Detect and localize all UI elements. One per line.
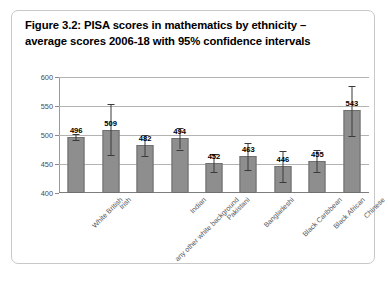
error-bar-cap-lower [176,150,183,151]
bar-group[interactable]: 494 [162,77,196,193]
figure-title-line-2: average scores 2006-18 with 95% confiden… [25,34,365,50]
figure-title-line-1: Figure 3.2: PISA scores in mathematics b… [25,18,365,34]
x-axis-category-label: Indian [188,196,207,215]
x-axis-category-labels: White BritishIrishany other white backgr… [59,196,369,262]
bar-value-label: 446 [277,155,290,164]
error-bar-cap-lower [142,156,149,157]
bar-group[interactable]: 543 [335,77,369,193]
x-axis-category-label: Chinese [362,196,386,220]
bar-group[interactable]: 455 [300,77,334,193]
x-axis-category-label: any other white background [174,196,241,263]
bar-value-label: 463 [242,145,255,154]
bar-group[interactable]: 509 [93,77,127,193]
y-axis-tick-label: 450 [41,160,53,169]
y-axis-tick-label: 500 [41,131,53,140]
error-bar-cap-lower [314,172,321,173]
bar[interactable] [68,137,85,193]
y-axis-tick-label: 550 [41,102,53,111]
error-bar-cap-lower [279,182,286,183]
bar-value-label: 452 [208,152,221,161]
x-axis-category-label: Black Caribbean [301,196,343,238]
y-axis-tick-label: 600 [41,73,53,82]
y-axis-tick [55,193,59,194]
figure-title: Figure 3.2: PISA scores in mathematics b… [25,18,365,49]
bar-group[interactable]: 496 [59,77,93,193]
bar-group[interactable]: 452 [197,77,231,193]
error-bar [351,86,352,136]
bar-group[interactable]: 463 [231,77,265,193]
error-bar-cap-upper [348,86,355,87]
bar-value-label: 543 [345,99,358,108]
x-axis-category-label: Bangladeshi [263,196,296,229]
error-bar [110,104,111,154]
error-bar-cap-lower [107,155,114,156]
error-bar-cap-lower [348,136,355,137]
error-bar-cap-lower [73,140,80,141]
bar-group[interactable]: 482 [128,77,162,193]
bar-value-label: 455 [311,150,324,159]
error-bar-cap-upper [107,104,114,105]
error-bar-cap-upper [245,143,252,144]
error-bar-cap-upper [279,151,286,152]
error-bar-cap-lower [245,170,252,171]
bar-value-label: 496 [70,126,83,135]
bar-value-label: 494 [173,127,186,136]
y-axis-tick-labels: 400450500550600 [12,77,53,193]
bar-value-label: 509 [104,119,117,128]
plot-area: 496509482494452463446455543 [59,77,369,193]
x-axis-category-label: White British [91,196,125,230]
bar-value-label: 482 [139,134,152,143]
bar-group[interactable]: 446 [266,77,300,193]
bar-chart: 400450500550600 496509482494452463446455… [12,59,374,264]
figure-card: Figure 3.2: PISA scores in mathematics b… [11,10,375,264]
y-axis-tick-label: 400 [41,189,53,198]
error-bar-cap-lower [210,172,217,173]
